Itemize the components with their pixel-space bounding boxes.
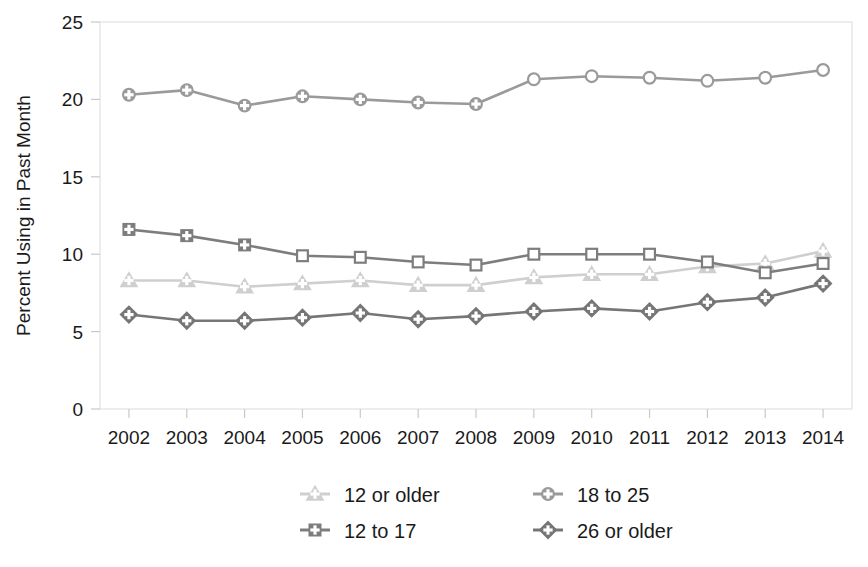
data-point-circle [644, 72, 656, 84]
y-axis-title: Percent Using in Past Month [13, 95, 34, 336]
data-point-square [124, 224, 135, 235]
data-point-diamond [526, 304, 542, 320]
x-tick-label: 2011 [629, 427, 670, 448]
x-tick-label: 2006 [339, 427, 381, 448]
data-point-circle [297, 90, 309, 102]
data-point-square [297, 250, 308, 261]
legend-item-12-or-older[interactable]: 12 or older [300, 484, 440, 506]
data-point-circle [123, 89, 135, 101]
data-point-circle [470, 98, 482, 110]
legend-item-26-or-older[interactable]: 26 or older [533, 520, 673, 542]
data-point-diamond [700, 294, 716, 310]
data-point-diamond [410, 311, 426, 327]
chart-legend: 12 or older18 to 2512 to 1726 or older [300, 484, 673, 542]
x-axis-ticks [129, 409, 823, 418]
legend-item-12-to-17[interactable]: 12 to 17 [300, 520, 416, 542]
data-point-diamond [540, 522, 556, 538]
data-point-circle [181, 84, 193, 96]
data-point-diamond [468, 308, 484, 324]
data-point-diamond [642, 304, 658, 320]
legend-label: 12 or older [344, 484, 440, 506]
data-point-diamond [757, 290, 773, 306]
legend-label: 12 to 17 [344, 520, 416, 542]
data-point-circle [239, 100, 251, 112]
y-tick-label: 15 [62, 167, 83, 188]
data-point-circle [354, 94, 366, 106]
x-tick-label: 2014 [802, 427, 845, 448]
data-point-square [528, 249, 539, 260]
x-tick-label: 2005 [281, 427, 323, 448]
data-point-square [760, 267, 771, 278]
y-tick-label: 5 [72, 322, 83, 343]
chart-canvas: 0510152025 20022003200420052006200720082… [0, 0, 868, 567]
x-tick-label: 2003 [166, 427, 208, 448]
x-tick-label: 2009 [513, 427, 555, 448]
data-point-circle [702, 75, 714, 87]
data-point-square [355, 252, 366, 263]
data-point-square [586, 249, 597, 260]
series-18-to-25 [123, 64, 829, 111]
data-point-diamond [815, 276, 831, 292]
data-point-circle [586, 70, 598, 82]
data-point-circle [528, 73, 540, 85]
data-point-diamond [121, 307, 137, 323]
data-point-square [239, 240, 250, 251]
data-point-square [310, 525, 321, 536]
y-axis-ticks [91, 22, 100, 409]
data-point-triangle [816, 244, 831, 257]
x-tick-label: 2008 [455, 427, 497, 448]
y-tick-label: 25 [62, 12, 83, 33]
legend-item-18-to-25[interactable]: 18 to 25 [533, 484, 649, 506]
x-tick-label: 2002 [108, 427, 150, 448]
legend-label: 18 to 25 [577, 484, 649, 506]
data-point-circle [412, 97, 424, 109]
x-tick-label: 2007 [397, 427, 439, 448]
x-axis-tick-labels: 2002200320042005200620072008200920102011… [108, 427, 845, 448]
data-series-layer [121, 64, 831, 329]
data-point-square [413, 257, 424, 268]
data-point-diamond [352, 305, 368, 321]
y-axis-tick-labels: 0510152025 [62, 12, 83, 420]
data-point-square [818, 258, 829, 269]
data-point-circle [759, 72, 771, 84]
data-point-square [181, 230, 192, 241]
x-tick-label: 2004 [223, 427, 266, 448]
data-point-circle [817, 64, 829, 76]
y-axis-title-text: Percent Using in Past Month [13, 95, 34, 336]
y-tick-label: 10 [62, 244, 83, 265]
legend-label: 26 or older [577, 520, 673, 542]
y-tick-label: 0 [72, 399, 83, 420]
data-point-diamond [179, 313, 195, 329]
y-tick-label: 20 [62, 89, 83, 110]
x-tick-label: 2013 [744, 427, 786, 448]
data-point-square [644, 249, 655, 260]
series-12-to-17 [124, 224, 829, 278]
data-point-circle [542, 488, 554, 500]
data-point-square [702, 257, 713, 268]
data-point-diamond [295, 310, 311, 326]
data-point-diamond [237, 313, 253, 329]
data-point-diamond [584, 301, 600, 317]
data-point-square [471, 260, 482, 271]
x-tick-label: 2012 [686, 427, 728, 448]
line-chart: 0510152025 20022003200420052006200720082… [0, 0, 868, 567]
x-tick-label: 2010 [571, 427, 613, 448]
